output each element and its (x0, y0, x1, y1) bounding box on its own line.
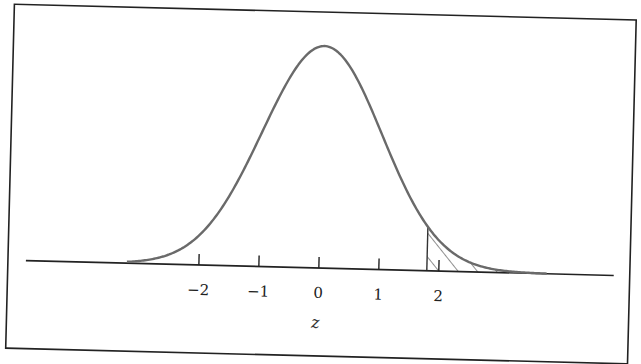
normal-curve-figure: −2−1012 z (0, 0, 641, 364)
x-tick-label: −2 (187, 281, 210, 300)
normal-density-curve (127, 41, 552, 273)
x-axis-title: z (310, 313, 320, 332)
x-tick-label: −1 (247, 282, 270, 301)
figure-frame (6, 4, 637, 364)
x-tick-label: 2 (433, 287, 443, 305)
x-tick-label: 1 (373, 285, 383, 303)
x-tick-label: 0 (313, 284, 323, 302)
x-axis-tick-labels: −2−1012 (187, 281, 443, 305)
plot-area: −2−1012 z (24, 39, 619, 340)
